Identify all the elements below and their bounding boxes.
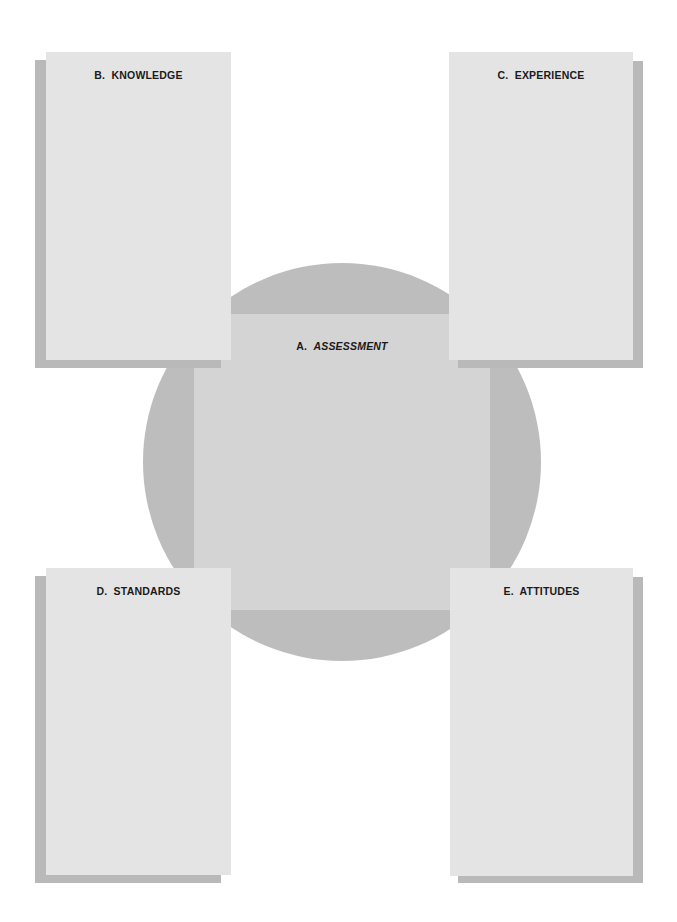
assessment-box: A. ASSESSMENT	[194, 314, 490, 610]
assessment-label: ASSESSMENT	[313, 340, 387, 352]
experience-card: C. EXPERIENCE	[449, 52, 633, 360]
experience-title: C. EXPERIENCE	[449, 69, 633, 81]
assessment-letter: A.	[296, 340, 307, 352]
assessment-title: A. ASSESSMENT	[194, 340, 490, 352]
knowledge-card: B. KNOWLEDGE	[46, 52, 231, 360]
knowledge-title: B. KNOWLEDGE	[46, 69, 231, 81]
attitudes-card: E. ATTITUDES	[450, 568, 633, 876]
attitudes-title: E. ATTITUDES	[450, 585, 633, 597]
standards-card: D. STANDARDS	[46, 568, 231, 875]
standards-title: D. STANDARDS	[46, 585, 231, 597]
